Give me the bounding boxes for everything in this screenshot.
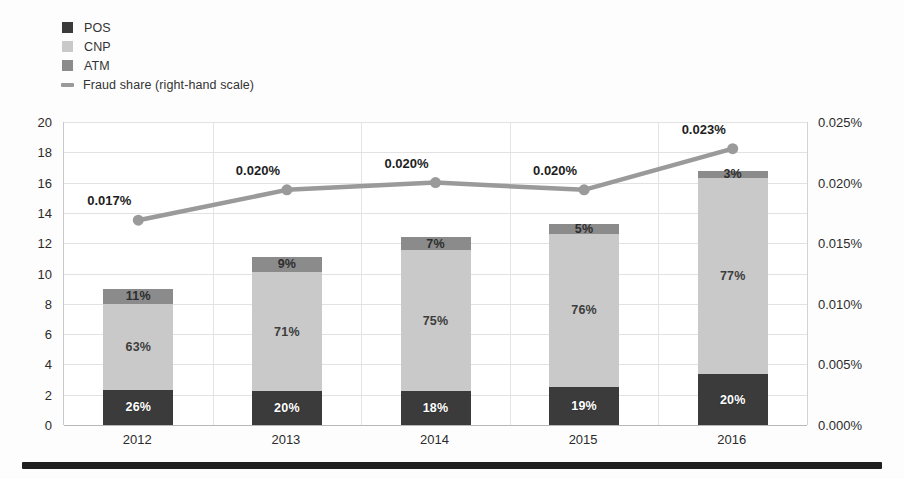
legend-item-label: Fraud share (right-hand scale) bbox=[83, 78, 254, 92]
legend-item-fraud: Fraud share (right-hand scale) bbox=[62, 75, 254, 94]
bar-segment-cnp-2012[interactable]: 63% bbox=[103, 304, 173, 390]
right-axis-tick: 0.010% bbox=[818, 297, 892, 310]
line-point-label-2012: 0.017% bbox=[87, 193, 131, 208]
left-axis-tick: 4 bbox=[4, 358, 52, 371]
bar-2012[interactable]: 26%63%11% bbox=[103, 289, 173, 425]
right-axis-tick: 0.000% bbox=[818, 419, 892, 432]
right-axis-tick: 0.025% bbox=[818, 116, 892, 129]
bar-segment-label: 71% bbox=[274, 325, 300, 339]
legend-line-marker-icon bbox=[61, 83, 74, 87]
bar-segment-atm-2014[interactable]: 7% bbox=[401, 237, 471, 250]
legend-item-label: CNP bbox=[84, 40, 111, 54]
legend-swatch-icon bbox=[62, 60, 73, 71]
plot-area: 26%63%11%20%71%9%18%75%7%19%76%5%20%77%3… bbox=[63, 122, 808, 425]
legend-swatch-icon bbox=[62, 22, 73, 33]
bar-segment-pos-2012[interactable]: 26% bbox=[103, 390, 173, 425]
left-axis-tick: 2 bbox=[4, 388, 52, 401]
bar-segment-label: 5% bbox=[575, 222, 593, 236]
bar-segment-label: 18% bbox=[423, 401, 449, 415]
x-axis-tick-2015: 2015 bbox=[569, 432, 598, 447]
line-point-label-2014: 0.020% bbox=[384, 156, 428, 171]
bar-2014[interactable]: 18%75%7% bbox=[401, 237, 471, 425]
line-marker-2012[interactable] bbox=[133, 215, 144, 226]
left-axis-tick: 8 bbox=[4, 297, 52, 310]
bar-segment-atm-2015[interactable]: 5% bbox=[549, 224, 619, 234]
bar-segment-label: 7% bbox=[426, 237, 444, 251]
bar-segment-atm-2013[interactable]: 9% bbox=[252, 257, 322, 272]
right-axis-tick: 0.005% bbox=[818, 358, 892, 371]
legend-item-pos: POS bbox=[62, 18, 254, 37]
bar-segment-label: 76% bbox=[571, 303, 597, 317]
line-point-label-2016: 0.023% bbox=[682, 122, 726, 137]
left-axis-tick: 14 bbox=[4, 206, 52, 219]
chart-legend: POSCNPATMFraud share (right-hand scale) bbox=[62, 18, 254, 94]
left-axis-tick: 0 bbox=[4, 419, 52, 432]
line-marker-2013[interactable] bbox=[281, 184, 292, 195]
bar-segment-cnp-2014[interactable]: 75% bbox=[401, 250, 471, 391]
bar-2015[interactable]: 19%76%5% bbox=[549, 224, 619, 425]
legend-swatch-icon bbox=[62, 41, 73, 52]
chart-canvas: POSCNPATMFraud share (right-hand scale) … bbox=[0, 0, 904, 479]
left-axis-tick: 20 bbox=[4, 116, 52, 129]
line-marker-2016[interactable] bbox=[727, 143, 738, 154]
x-axis-tick-2016: 2016 bbox=[717, 432, 746, 447]
x-axis-tick-2012: 2012 bbox=[123, 432, 152, 447]
legend-item-label: POS bbox=[84, 21, 111, 35]
bar-segment-pos-2014[interactable]: 18% bbox=[401, 391, 471, 425]
left-axis-tick: 6 bbox=[4, 328, 52, 341]
bar-segment-label: 20% bbox=[274, 401, 300, 415]
right-axis-tick: 0.020% bbox=[818, 176, 892, 189]
bar-segment-atm-2012[interactable]: 11% bbox=[103, 289, 173, 304]
bar-segment-label: 3% bbox=[723, 167, 741, 181]
bar-segment-label: 26% bbox=[125, 400, 151, 414]
left-axis-tick: 12 bbox=[4, 237, 52, 250]
bar-segment-label: 63% bbox=[125, 340, 151, 354]
legend-item-atm: ATM bbox=[62, 56, 254, 75]
bar-segment-pos-2016[interactable]: 20% bbox=[698, 374, 768, 425]
legend-item-cnp: CNP bbox=[62, 37, 254, 56]
bar-segment-label: 20% bbox=[720, 393, 746, 407]
x-axis-tick-2014: 2014 bbox=[420, 432, 449, 447]
line-point-label-2015: 0.020% bbox=[533, 163, 577, 178]
bar-segment-atm-2016[interactable]: 3% bbox=[698, 171, 768, 179]
x-axis-tick-2013: 2013 bbox=[271, 432, 300, 447]
left-axis-tick: 10 bbox=[4, 267, 52, 280]
bar-segment-label: 11% bbox=[126, 289, 151, 303]
gridline bbox=[64, 425, 807, 426]
bar-2016[interactable]: 20%77%3% bbox=[698, 170, 768, 425]
left-axis-tick: 16 bbox=[4, 176, 52, 189]
line-point-label-2013: 0.020% bbox=[236, 163, 280, 178]
line-marker-2015[interactable] bbox=[579, 184, 590, 195]
bar-segment-label: 19% bbox=[571, 399, 597, 413]
bar-segment-pos-2013[interactable]: 20% bbox=[252, 391, 322, 425]
bottom-rule bbox=[22, 462, 882, 469]
line-marker-2014[interactable] bbox=[430, 177, 441, 188]
bar-segment-label: 77% bbox=[720, 269, 746, 283]
bar-segment-pos-2015[interactable]: 19% bbox=[549, 387, 619, 425]
left-axis-tick: 18 bbox=[4, 146, 52, 159]
bar-segment-label: 9% bbox=[278, 257, 296, 271]
bar-segment-cnp-2015[interactable]: 76% bbox=[549, 234, 619, 387]
bar-segment-cnp-2013[interactable]: 71% bbox=[252, 272, 322, 391]
bar-segment-label: 75% bbox=[423, 314, 449, 328]
right-axis-tick: 0.015% bbox=[818, 237, 892, 250]
bar-2013[interactable]: 20%71%9% bbox=[252, 257, 322, 425]
legend-item-label: ATM bbox=[84, 59, 110, 73]
bar-segment-cnp-2016[interactable]: 77% bbox=[698, 178, 768, 374]
